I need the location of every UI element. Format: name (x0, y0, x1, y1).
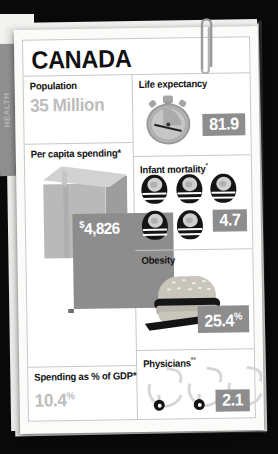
stat-life-expectancy-badge: 81.9 (202, 113, 245, 136)
stat-life-expectancy[interactable]: Life expectancy 81.9 (133, 73, 251, 157)
right-column: Life expectancy 81.9 Infant mortality° (133, 73, 255, 419)
stopwatch-icon (145, 94, 192, 145)
stethoscope-icon (144, 367, 185, 412)
stat-population-value: 35 Million (30, 93, 122, 116)
stat-physicians[interactable]: Physicians°° 2.1 (137, 349, 255, 419)
stat-obesity-badge: 25.4% (197, 305, 248, 332)
stat-spending-gdp-label: Spending as % of GDP* (34, 370, 126, 383)
stat-infant-mortality-badge: 4.7 (212, 209, 247, 232)
stat-obesity-label: Obesity (142, 253, 241, 267)
stat-per-capita-spending-label: Per capita spending* (31, 147, 123, 160)
baby-icon (142, 211, 168, 240)
left-column: Population 35 Million Per capita spendin… (24, 75, 139, 421)
stat-spending-gdp-value-wrap: 10.4% (34, 384, 126, 411)
stat-population[interactable]: Population 35 Million (24, 75, 134, 145)
baby-icon (177, 210, 203, 239)
infographic-frame: CANADA Population 35 Million Per capita … (22, 36, 256, 422)
stat-life-expectancy-label: Life expectancy (139, 77, 238, 91)
stat-population-label: Population (30, 79, 122, 92)
baby-icon (142, 175, 168, 204)
stat-physicians-label-suffix: °° (191, 356, 196, 363)
stat-obesity-unit: % (233, 310, 241, 321)
stat-per-capita-spending-value: 4,826 (84, 220, 120, 238)
stat-per-capita-spending[interactable]: Per capita spending* $4,826 (25, 143, 137, 368)
stat-physicians-badge: 2.1 (215, 389, 250, 412)
stat-infant-mortality[interactable]: Infant mortality° 4.7 (134, 155, 252, 251)
infographic-page: CANADA Population 35 Million Per capita … (14, 26, 264, 434)
stats-grid: Population 35 Million Per capita spendin… (24, 73, 255, 421)
stat-obesity-value: 25.4 (204, 311, 234, 330)
stat-spending-gdp-unit: % (66, 390, 74, 401)
stat-spending-gdp[interactable]: Spending as % of GDP* 10.4% (28, 366, 137, 421)
section-tab-label: HEALTH (2, 92, 12, 127)
stat-obesity[interactable]: Obesity (136, 249, 254, 351)
stat-infant-mortality-label-suffix: ° (206, 162, 209, 169)
baby-icon (176, 174, 202, 203)
stat-spending-gdp-value: 10.4 (35, 390, 67, 410)
paperclip-icon (196, 12, 216, 74)
baby-icon (211, 173, 237, 202)
